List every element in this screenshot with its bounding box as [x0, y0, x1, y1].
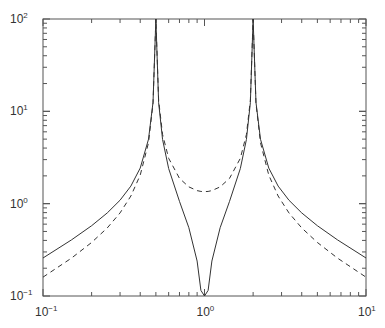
y-tick-label: 10−1 — [10, 288, 33, 303]
series-dashed-line — [43, 19, 366, 277]
y-tick-label: 102 — [10, 11, 28, 26]
x-tick-label: 100 — [197, 304, 215, 319]
y-tick-label: 100 — [10, 196, 28, 211]
y-axis-tick-labels: 10−1100101102 — [10, 11, 33, 303]
plot-frame — [43, 19, 366, 296]
x-axis-ticks — [43, 19, 366, 296]
plot-border — [43, 19, 366, 296]
x-axis-tick-labels: 10−1100101 — [35, 304, 376, 319]
series-solid-line — [43, 19, 366, 296]
data-series — [43, 19, 366, 296]
x-tick-label: 10−1 — [35, 304, 58, 319]
x-tick-label: 101 — [358, 304, 376, 319]
chart: 10−1100101 10−1100101102 — [0, 0, 385, 328]
y-axis-ticks — [43, 19, 366, 296]
y-tick-label: 101 — [10, 103, 28, 118]
